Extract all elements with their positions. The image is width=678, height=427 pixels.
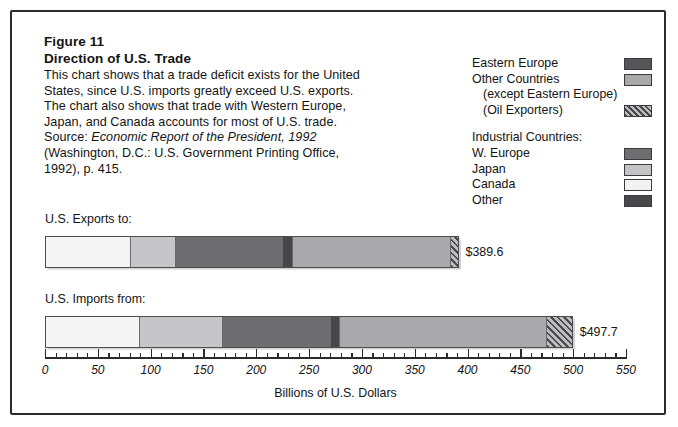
legend-item: Eastern Europe bbox=[472, 56, 652, 72]
axis-tick-minor bbox=[320, 353, 321, 358]
legend-item-label: Other Countries bbox=[472, 72, 559, 88]
axis-tick-minor bbox=[235, 353, 236, 358]
bar-segment-otherc bbox=[340, 317, 548, 347]
description-line: States, since U.S. imports greatly excee… bbox=[44, 84, 424, 100]
axis-tick-minor bbox=[66, 353, 67, 358]
axis-tick-minor bbox=[478, 353, 479, 358]
axis-tick-minor bbox=[510, 353, 511, 358]
figure-container: Figure 11 Direction of U.S. Trade This c… bbox=[0, 0, 678, 427]
axis-tick-label: 250 bbox=[299, 363, 319, 377]
stacked-bar bbox=[45, 316, 573, 348]
bar-segment-otherc bbox=[293, 237, 451, 267]
source-citation: Economic Report of the President, 1992 bbox=[91, 130, 316, 144]
figure-title: Direction of U.S. Trade bbox=[44, 50, 424, 67]
axis-tick-minor bbox=[225, 353, 226, 358]
axis-tick-label: 400 bbox=[458, 363, 478, 377]
axis-tick-minor bbox=[193, 353, 194, 358]
legend-swatch-icon bbox=[624, 105, 652, 117]
axis-title: Billions of U.S. Dollars bbox=[274, 386, 397, 400]
axis-tick-minor bbox=[56, 353, 57, 358]
bar-total-label: $497.7 bbox=[580, 325, 618, 339]
axis-tick-minor bbox=[541, 353, 542, 358]
axis-tick-major bbox=[362, 349, 363, 359]
legend-item: (Oil Exporters) bbox=[472, 103, 652, 119]
bar-segment-weurope bbox=[223, 317, 331, 347]
axis-tick-minor bbox=[119, 353, 120, 358]
axis-tick-minor bbox=[351, 353, 352, 358]
axis-tick-minor bbox=[552, 353, 553, 358]
bar-segment-oil bbox=[547, 317, 571, 347]
legend-swatch-icon bbox=[624, 195, 652, 207]
legend-item-label: Eastern Europe bbox=[472, 56, 558, 72]
x-axis: 050100150200250300350400450500550 Billio… bbox=[45, 357, 626, 358]
legend-item-label: W. Europe bbox=[472, 146, 530, 162]
figure-number: Figure 11 bbox=[44, 34, 424, 50]
axis-tick-minor bbox=[172, 353, 173, 358]
axis-tick-minor bbox=[563, 353, 564, 358]
source-line: Source: Economic Report of the President… bbox=[44, 130, 424, 146]
bar-group-label: U.S. Imports from: bbox=[45, 292, 146, 306]
axis-tick-minor bbox=[605, 353, 606, 358]
legend-swatch-icon bbox=[624, 74, 652, 86]
bar-segment-japan bbox=[131, 237, 176, 267]
figure-description: This chart shows that a trade deficit ex… bbox=[44, 68, 424, 177]
axis-tick-major bbox=[415, 349, 416, 359]
legend-item-label: (Oil Exporters) bbox=[483, 103, 563, 119]
axis-tick-minor bbox=[383, 353, 384, 358]
axis-tick-label: 350 bbox=[405, 363, 425, 377]
axis-tick-minor bbox=[130, 353, 131, 358]
axis-tick-minor bbox=[436, 353, 437, 358]
axis-tick-minor bbox=[299, 353, 300, 358]
axis-tick-major bbox=[573, 349, 574, 359]
legend-item-label: Japan bbox=[472, 162, 506, 178]
axis-tick-major bbox=[626, 349, 627, 359]
axis-tick-minor bbox=[584, 353, 585, 358]
legend-item: Canada bbox=[472, 177, 652, 193]
legend-item-label: Canada bbox=[472, 177, 515, 193]
axis-tick-label: 450 bbox=[510, 363, 530, 377]
description-line: This chart shows that a trade deficit ex… bbox=[44, 68, 424, 84]
axis-tick-minor bbox=[404, 353, 405, 358]
axis-tick-minor bbox=[267, 353, 268, 358]
axis-tick-minor bbox=[87, 353, 88, 358]
legend-item: Japan bbox=[472, 162, 652, 178]
legend-item-label: (except Eastern Europe) bbox=[483, 87, 617, 103]
axis-tick-minor bbox=[330, 353, 331, 358]
axis-tick-minor bbox=[489, 353, 490, 358]
axis-tick-label: 550 bbox=[616, 363, 636, 377]
axis-tick-minor bbox=[394, 353, 395, 358]
bar-segment-otherind bbox=[283, 237, 294, 267]
axis-tick-major bbox=[203, 349, 204, 359]
axis-tick-minor bbox=[594, 353, 595, 358]
axis-tick-major bbox=[98, 349, 99, 359]
legend-item: (except Eastern Europe) bbox=[472, 87, 652, 103]
axis-tick-minor bbox=[288, 353, 289, 358]
axis-tick-minor bbox=[372, 353, 373, 358]
chart-legend: Eastern EuropeOther Countries(except Eas… bbox=[472, 56, 652, 208]
bar-segment-canada bbox=[46, 237, 131, 267]
bar-segment-canada bbox=[46, 317, 140, 347]
legend-item: Other bbox=[472, 193, 652, 209]
axis-tick-minor bbox=[214, 353, 215, 358]
axis-tick-label: 500 bbox=[563, 363, 583, 377]
axis-tick-minor bbox=[531, 353, 532, 358]
legend-item: Other Countries bbox=[472, 72, 652, 88]
axis-tick-major bbox=[468, 349, 469, 359]
axis-tick-minor bbox=[457, 353, 458, 358]
axis-tick-major bbox=[309, 349, 310, 359]
legend-swatch-icon bbox=[624, 164, 652, 176]
source-prefix: Source: bbox=[44, 130, 91, 144]
axis-tick-minor bbox=[277, 353, 278, 358]
axis-tick-label: 50 bbox=[91, 363, 104, 377]
bar-segment-japan bbox=[140, 317, 223, 347]
legend-item-label: Other bbox=[472, 193, 503, 209]
axis-tick-minor bbox=[140, 353, 141, 358]
axis-tick-label: 150 bbox=[193, 363, 213, 377]
axis-tick-minor bbox=[77, 353, 78, 358]
axis-tick-major bbox=[151, 349, 152, 359]
axis-tick-minor bbox=[246, 353, 247, 358]
legend-swatch-icon bbox=[624, 179, 652, 191]
axis-tick-major bbox=[520, 349, 521, 359]
axis-tick-minor bbox=[425, 353, 426, 358]
axis-tick-minor bbox=[108, 353, 109, 358]
